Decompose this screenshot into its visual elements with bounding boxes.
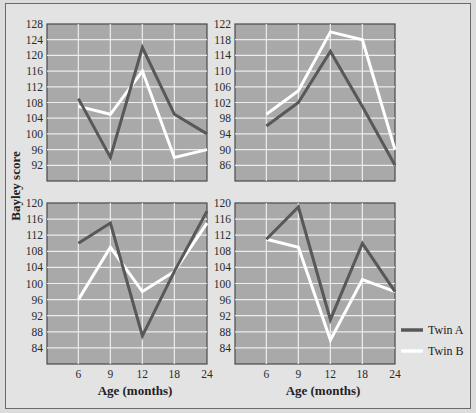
y-tick-label: 86 (220, 159, 232, 171)
y-tick-label: 96 (32, 294, 44, 306)
y-tick-label: 96 (220, 294, 232, 306)
x-tick-label: 24 (389, 368, 401, 380)
x-tick-label: 12 (325, 368, 337, 380)
y-tick-label: 108 (214, 245, 232, 257)
y-tick-label: 98 (220, 112, 232, 124)
y-tick-label: 118 (214, 34, 231, 46)
y-tick-label: 120 (26, 49, 44, 61)
x-tick-label: 18 (357, 368, 369, 380)
y-tick-label: 104 (26, 261, 44, 273)
y-tick-label: 102 (214, 97, 232, 109)
y-tick-label: 122 (214, 18, 232, 30)
y-tick-label: 114 (214, 49, 231, 61)
panel-top-right: 12211811411010610298949086 (214, 18, 395, 181)
y-tick-label: 108 (26, 97, 44, 109)
chart-figure: 1281241201161121081041009692122118114110… (0, 0, 476, 413)
y-tick-label: 92 (32, 159, 44, 171)
y-tick-label: 120 (26, 197, 44, 209)
y-tick-label: 106 (214, 81, 232, 93)
y-tick-label: 116 (26, 213, 43, 225)
y-tick-label: 124 (26, 34, 44, 46)
y-tick-label: 94 (220, 128, 232, 140)
svg-text:Twin A: Twin A (428, 323, 464, 337)
y-tick-label: 104 (26, 112, 44, 124)
y-tick-label: 84 (32, 342, 44, 354)
y-tick-label: 90 (220, 144, 232, 156)
y-tick-label: 110 (214, 65, 231, 77)
panel-bottom-left: 1201161121081041009692888469121824Age (m… (26, 197, 213, 398)
legend-item-twin-a: Twin A (401, 323, 464, 337)
panel-top-left: 1281241201161121081041009692 (26, 18, 207, 181)
y-axis-title: Bayley score (8, 151, 23, 221)
y-tick-label: 100 (26, 278, 44, 290)
y-tick-label: 84 (220, 342, 232, 354)
x-tick-label: 24 (201, 368, 213, 380)
y-tick-label: 116 (26, 65, 43, 77)
x-tick-label: 6 (75, 368, 81, 380)
x-tick-label: 12 (137, 368, 149, 380)
y-tick-label: 112 (26, 229, 43, 241)
y-tick-label: 108 (26, 245, 44, 257)
y-tick-label: 112 (26, 81, 43, 93)
x-tick-label: 9 (107, 368, 113, 380)
y-tick-label: 100 (214, 278, 232, 290)
y-tick-label: 92 (32, 310, 44, 322)
x-axis-title: Age (months) (98, 383, 173, 398)
y-tick-label: 88 (220, 326, 232, 338)
y-tick-label: 100 (26, 128, 44, 140)
x-tick-label: 18 (169, 368, 181, 380)
y-tick-label: 88 (32, 326, 44, 338)
y-tick-label: 96 (32, 144, 44, 156)
y-tick-label: 128 (26, 18, 44, 30)
x-tick-label: 9 (295, 368, 301, 380)
y-tick-label: 112 (214, 229, 231, 241)
svg-text:Twin B: Twin B (428, 344, 464, 358)
x-axis-title: Age (months) (286, 383, 361, 398)
y-tick-label: 120 (214, 197, 232, 209)
x-tick-label: 6 (263, 368, 269, 380)
panel-bottom-right: 1201161121081041009692888469121824Age (m… (214, 197, 401, 398)
y-tick-label: 104 (214, 261, 232, 273)
y-tick-label: 116 (214, 213, 231, 225)
y-tick-label: 92 (220, 310, 232, 322)
legend-item-twin-b: Twin B (401, 344, 464, 358)
